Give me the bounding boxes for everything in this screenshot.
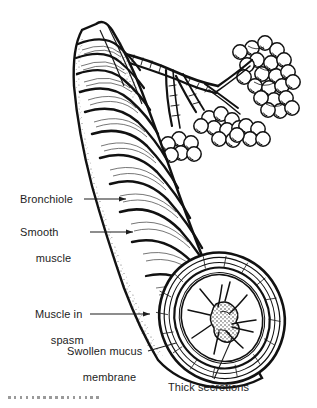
label-smooth-muscle: Smooth muscle [20, 226, 71, 265]
label-smooth-muscle-line1: Smooth [20, 226, 59, 238]
label-thick-secretions: Thick secretions [168, 381, 249, 394]
label-swollen-mucus-line2: membrane [83, 371, 136, 383]
decorative-dot-row [8, 396, 99, 399]
label-swollen-mucus-membrane: Swollen mucus membrane [67, 345, 142, 384]
label-bronchiole: Bronchiole [20, 193, 73, 206]
label-muscle-spasm-line1: Muscle in [35, 308, 82, 320]
label-swollen-mucus-line1: Swollen mucus [67, 345, 142, 357]
label-muscle-in-spasm: Muscle in spasm [35, 308, 84, 347]
label-smooth-muscle-line2: muscle [36, 252, 71, 264]
